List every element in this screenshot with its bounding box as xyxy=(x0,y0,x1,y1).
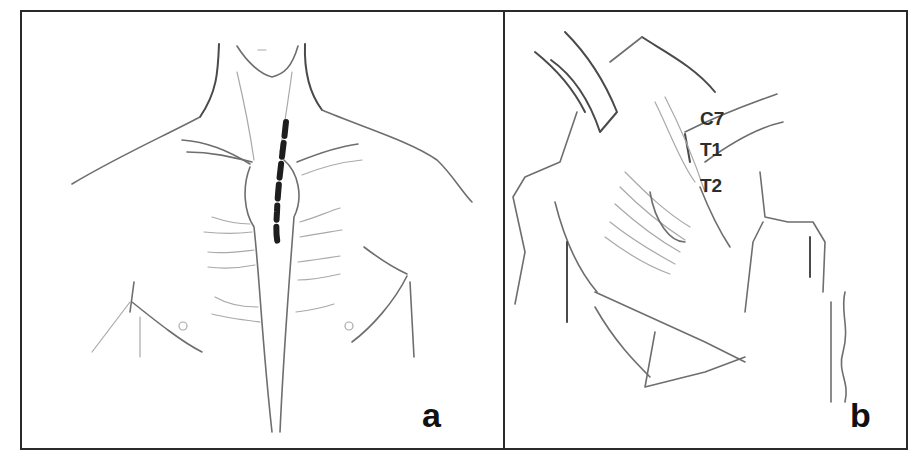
right-clavicle xyxy=(297,144,358,162)
right-shoulder xyxy=(322,110,472,202)
right-pectoral-top xyxy=(364,247,407,274)
surgical-exposure-sketch xyxy=(505,12,906,448)
left-pectoral xyxy=(130,282,202,352)
figure-frame: a xyxy=(20,10,908,450)
vertebra-label-t2: T2 xyxy=(700,176,722,195)
right-flap-outline xyxy=(760,172,825,292)
incision-line xyxy=(276,122,286,244)
panel-label-b: b xyxy=(850,398,871,432)
left-retractor-2 xyxy=(535,52,585,112)
sternum-right xyxy=(280,160,299,432)
vertebral-body xyxy=(650,192,685,242)
right-arm xyxy=(352,276,414,357)
left-shoulder xyxy=(72,117,200,184)
sternum-left xyxy=(245,167,272,432)
panel-a: a xyxy=(22,12,503,448)
left-retractor-1 xyxy=(551,32,617,132)
chest-sketch xyxy=(22,12,503,448)
right-nipple xyxy=(345,322,353,330)
vertebra-label-t1: T1 xyxy=(700,140,722,159)
neck-left-contour xyxy=(200,44,219,117)
jaw-line xyxy=(237,46,298,77)
panel-label-a: a xyxy=(422,398,441,432)
panel-b: C7 T1 T2 b xyxy=(505,12,906,448)
artist-signature xyxy=(841,292,846,402)
vertebra-label-c7: C7 xyxy=(700,109,724,128)
lower-flap-edge xyxy=(595,292,745,362)
left-nipple xyxy=(179,322,187,330)
exposure-top-edge xyxy=(642,37,715,92)
neck-right-contour xyxy=(305,44,322,110)
